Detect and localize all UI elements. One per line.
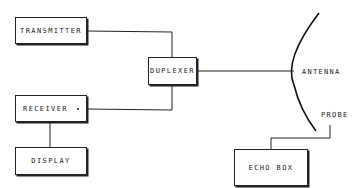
line-probe-echobox [271, 125, 330, 149]
probe-label: PROBE [321, 111, 349, 119]
duplexer-label: DUPLEXER [150, 67, 195, 75]
echo-box-label: ECHO BOX [249, 164, 294, 172]
transmitter-label: TRANSMITTER [20, 27, 82, 35]
radar-block-diagram: TRANSMITTER DUPLEXER RECEIVER DISPLAY EC… [0, 0, 354, 188]
display-block: DISPLAY [15, 147, 87, 175]
receiver-label: RECEIVER [23, 105, 68, 113]
line-transmitter-duplexer [87, 31, 172, 57]
echo-box-block: ECHO BOX [234, 149, 308, 186]
duplexer-block: DUPLEXER [148, 57, 197, 85]
receiver-dot-icon [77, 108, 79, 110]
display-label: DISPLAY [31, 157, 70, 165]
transmitter-block: TRANSMITTER [15, 17, 87, 44]
antenna-label: ANTENNA [302, 68, 341, 76]
receiver-block: RECEIVER [15, 95, 87, 122]
line-duplexer-receiver [87, 85, 172, 110]
